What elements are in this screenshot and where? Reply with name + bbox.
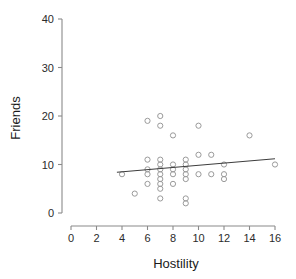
data-point [209, 152, 214, 157]
y-tick-label: 20 [42, 110, 54, 122]
x-tick-label: 12 [218, 232, 230, 244]
plot-canvas: 010203040 0246810121416 Friends Hostilit… [0, 0, 296, 279]
x-tick-label: 16 [269, 232, 281, 244]
x-tick-label: 14 [243, 232, 255, 244]
y-tick-label: 10 [42, 159, 54, 171]
x-tick-label: 4 [119, 232, 125, 244]
x-tick-label: 0 [68, 232, 74, 244]
data-point [247, 133, 252, 138]
x-axis-title: Hostility [153, 256, 199, 271]
y-axis-title: Friends [8, 96, 23, 140]
data-point [132, 191, 137, 196]
regression-line [117, 159, 275, 173]
y-tick-label: 30 [42, 62, 54, 74]
data-point [196, 123, 201, 128]
x-tick-label: 10 [192, 232, 204, 244]
data-point [196, 172, 201, 177]
x-tick-label: 2 [93, 232, 99, 244]
y-axis: 010203040 [42, 13, 62, 219]
data-point [196, 152, 201, 157]
x-tick-label: 8 [170, 232, 176, 244]
data-point [145, 118, 150, 123]
data-point [158, 113, 163, 118]
data-point [145, 181, 150, 186]
y-tick-label: 0 [48, 207, 54, 219]
data-point [272, 162, 277, 167]
data-point [170, 133, 175, 138]
x-tick-label: 6 [144, 232, 150, 244]
data-point [145, 157, 150, 162]
data-point [158, 196, 163, 201]
y-tick-label: 40 [42, 13, 54, 25]
regression-line-segment [117, 159, 275, 173]
data-point [158, 123, 163, 128]
x-axis: 0246810121416 [68, 226, 281, 244]
scatter-plot-figure: 010203040 0246810121416 Friends Hostilit… [0, 0, 296, 279]
data-points [119, 113, 277, 205]
data-point [170, 181, 175, 186]
data-point [209, 172, 214, 177]
